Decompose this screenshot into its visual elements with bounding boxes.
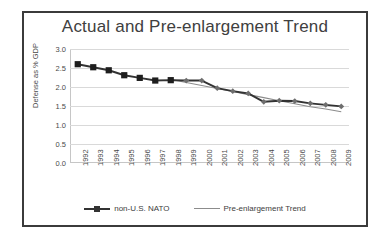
legend-label-trend: Pre-enlargement Trend xyxy=(224,204,306,213)
legend-swatch-actual xyxy=(84,205,110,213)
data-point-marker xyxy=(168,77,174,83)
y-axis-label: Defense as % GDP xyxy=(31,28,40,124)
y-tick-label: 0.5 xyxy=(44,140,66,149)
data-point-marker xyxy=(106,67,112,73)
data-point-marker xyxy=(121,72,127,78)
actual-line xyxy=(78,64,342,106)
data-point-marker xyxy=(137,75,143,81)
data-point-marker xyxy=(276,98,282,104)
y-tick-label: 0.0 xyxy=(44,159,66,168)
data-point-marker xyxy=(230,88,236,94)
legend-label-actual: non-U.S. NATO xyxy=(114,204,169,213)
trend-line xyxy=(171,79,342,111)
data-point-marker xyxy=(338,103,344,109)
legend-item-actual[interactable]: non-U.S. NATO xyxy=(84,204,169,213)
data-point-marker xyxy=(307,100,313,106)
series-lines xyxy=(70,49,349,163)
y-tick-label: 3.0 xyxy=(44,45,66,54)
data-point-marker xyxy=(323,102,329,108)
y-tick-label: 1.0 xyxy=(44,121,66,130)
chart-frame: Actual and Pre-enlargement Trend Defense… xyxy=(22,11,368,227)
legend-swatch-trend xyxy=(194,205,220,213)
legend-item-trend[interactable]: Pre-enlargement Trend xyxy=(194,204,306,213)
chart-title: Actual and Pre-enlargement Trend xyxy=(24,17,366,37)
data-point-marker xyxy=(75,61,81,67)
plot-area: 0.00.51.01.52.02.53.0 199219931994199519… xyxy=(70,49,349,163)
y-tick-label: 1.5 xyxy=(44,102,66,111)
y-tick-label: 2.0 xyxy=(44,83,66,92)
data-point-marker xyxy=(152,77,158,83)
chart-legend: non-U.S. NATO Pre-enlargement Trend xyxy=(24,204,366,213)
data-point-marker xyxy=(90,64,96,70)
y-tick-label: 2.5 xyxy=(44,64,66,73)
